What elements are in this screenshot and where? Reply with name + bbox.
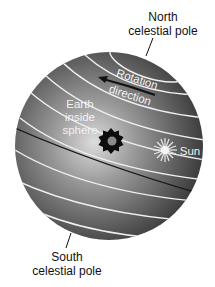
north-pole-label-line1: North bbox=[118, 10, 208, 24]
sun-label: Sun bbox=[175, 145, 205, 158]
north-pole-leader bbox=[146, 38, 153, 56]
earth-label-line2: inside bbox=[58, 111, 102, 124]
earth-label-line3: sphere bbox=[58, 124, 102, 137]
south-pole-label-line2: celestial pole bbox=[22, 264, 112, 278]
earth-inside-sphere-label: Earth inside sphere bbox=[58, 98, 102, 137]
earth-label-line1: Earth bbox=[58, 98, 102, 111]
south-pole-leader bbox=[66, 233, 71, 248]
north-pole-label-line2: celestial pole bbox=[118, 24, 208, 38]
north-pole-label: North celestial pole bbox=[118, 10, 208, 38]
south-pole-label-line1: South bbox=[22, 250, 112, 264]
south-pole-label: South celestial pole bbox=[22, 250, 112, 278]
celestial-sphere-diagram bbox=[0, 0, 215, 287]
